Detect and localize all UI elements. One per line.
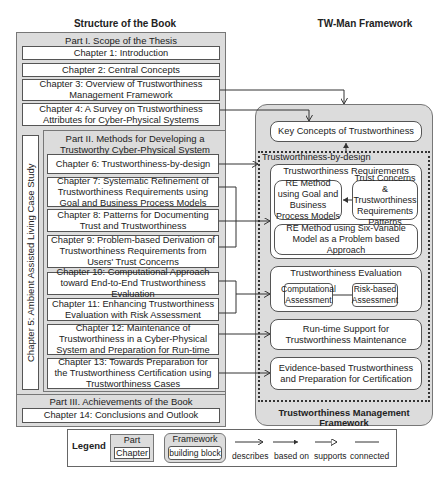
chapter-11[interactable]: Chapter 11: Enhancing Trustworthiness Ev… — [47, 298, 219, 321]
legend-framework-label: Framework — [164, 434, 226, 445]
chapter-7[interactable]: Chapter 7: Systematic Refinement of Trus… — [47, 177, 219, 207]
chapter-5-case-study[interactable]: Chapter 5: Ambient Assisted Living Case … — [22, 135, 39, 390]
evidence-block[interactable]: Evidence-based Trustworthiness and Prepa… — [270, 357, 422, 390]
legend-part-label: Part — [110, 435, 154, 446]
legend-based-on: based on — [274, 451, 309, 462]
legend-describes: describes — [232, 451, 268, 462]
legend-building-block: building block — [168, 446, 222, 460]
key-concepts-block[interactable]: Key Concepts of Trustworthiness — [270, 121, 422, 142]
legend-supports: supports — [314, 451, 347, 462]
chapter-4[interactable]: Chapter 4: A Survey on Trustworthiness A… — [22, 103, 220, 126]
part-1-label: Part I. Scope of the Thesis — [16, 35, 226, 46]
legend-title: Legend — [72, 440, 106, 451]
chapter-8[interactable]: Chapter 8: Patterns for Documenting Trus… — [47, 209, 219, 232]
patterns-block[interactable]: Trust Concerns & Trustworthiness Require… — [352, 180, 418, 220]
risk-block[interactable]: Risk-based Assessment — [352, 283, 398, 307]
computational-block[interactable]: Computational Assessment — [284, 283, 333, 307]
part-3-label: Part III. Achievements of the Book — [16, 396, 226, 407]
chapter-1[interactable]: Chapter 1: Introduction — [22, 46, 220, 60]
chapter-10[interactable]: Chapter 10: Computational Approach towar… — [47, 272, 219, 295]
chapter-9[interactable]: Chapter 9: Problem-based Derivation of T… — [47, 235, 219, 268]
re-goal-block[interactable]: RE Method using Goal and Business Proces… — [274, 180, 342, 220]
chapter-3[interactable]: Chapter 3: Overview of Trustworthiness M… — [22, 79, 220, 101]
framework-name: Trustworthiness Management Framework — [255, 408, 433, 428]
evaluation-label: Trustworthiness Evaluation — [270, 268, 422, 279]
chapter-6[interactable]: Chapter 6: Trustworthiness-by-design — [47, 154, 219, 174]
runtime-block[interactable]: Run-time Support for Trustworthiness Mai… — [270, 319, 422, 350]
legend-connected: connected — [350, 451, 389, 462]
right-title: TW-Man Framework — [300, 18, 430, 29]
left-title: Structure of the Book — [40, 18, 210, 29]
chapter-14[interactable]: Chapter 14: Conclusions and Outlook — [22, 408, 220, 423]
six-variable-block[interactable]: RE Method using Six-Variable Model as a … — [274, 224, 418, 255]
legend-arrows — [233, 436, 413, 450]
part-2-label: Part II. Methods for Developing a Trustw… — [50, 133, 220, 155]
chapter-12[interactable]: Chapter 12: Maintenance of Trustworthine… — [47, 324, 219, 355]
legend-chapter: Chapter — [114, 447, 150, 459]
chapter-2[interactable]: Chapter 2: Central Concepts — [22, 63, 220, 77]
chapter-13[interactable]: Chapter 13: Towards Preparation for the … — [47, 358, 219, 389]
by-design-label: Trustworthiness-by-design — [262, 152, 371, 163]
